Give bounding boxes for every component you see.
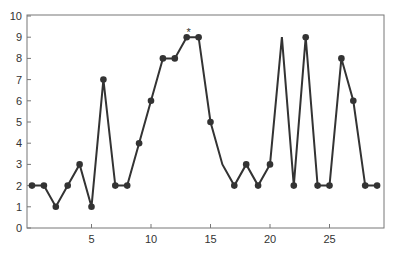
data-point xyxy=(243,161,250,168)
y-tick-label: 4 xyxy=(16,137,22,149)
data-point xyxy=(64,182,71,189)
asterisk-annotation: * xyxy=(187,26,192,38)
data-point xyxy=(100,76,107,83)
y-tick-label: 5 xyxy=(16,116,22,128)
data-point xyxy=(207,119,214,126)
data-point xyxy=(291,182,298,189)
data-point xyxy=(160,55,167,62)
data-point xyxy=(302,34,309,41)
data-point xyxy=(172,55,179,62)
y-tick-label: 6 xyxy=(16,95,22,107)
data-point xyxy=(195,34,202,41)
data-point xyxy=(338,55,345,62)
data-point xyxy=(88,204,95,211)
y-axis: 012345678910 xyxy=(10,10,31,234)
data-point xyxy=(350,98,357,105)
data-point xyxy=(124,182,131,189)
x-tick-label: 10 xyxy=(145,233,157,245)
data-point xyxy=(231,182,238,189)
annotations: * xyxy=(187,26,192,38)
x-tick-label: 15 xyxy=(204,233,216,245)
plot-frame xyxy=(27,15,384,228)
data-point xyxy=(76,161,83,168)
data-point xyxy=(374,182,381,189)
x-tick-label: 5 xyxy=(88,233,94,245)
data-point xyxy=(136,140,143,147)
y-tick-label: 9 xyxy=(16,31,22,43)
data-point xyxy=(29,182,36,189)
data-markers xyxy=(29,34,381,210)
data-point xyxy=(326,182,333,189)
data-point xyxy=(112,182,119,189)
data-point xyxy=(255,182,262,189)
y-tick-label: 1 xyxy=(16,201,22,213)
data-point xyxy=(362,182,369,189)
data-point xyxy=(314,182,321,189)
y-tick-label: 2 xyxy=(16,180,22,192)
data-line xyxy=(32,37,377,207)
x-tick-label: 25 xyxy=(323,233,335,245)
data-point xyxy=(53,204,60,211)
data-point xyxy=(148,98,155,105)
y-tick-label: 7 xyxy=(16,74,22,86)
y-tick-label: 3 xyxy=(16,158,22,170)
y-tick-label: 0 xyxy=(16,222,22,234)
data-point xyxy=(267,161,274,168)
x-axis: 510152025 xyxy=(88,224,335,245)
y-tick-label: 10 xyxy=(10,10,22,22)
data-point xyxy=(41,182,48,189)
x-tick-label: 20 xyxy=(264,233,276,245)
line-chart: 012345678910 510152025 * xyxy=(0,0,395,256)
y-tick-label: 8 xyxy=(16,52,22,64)
